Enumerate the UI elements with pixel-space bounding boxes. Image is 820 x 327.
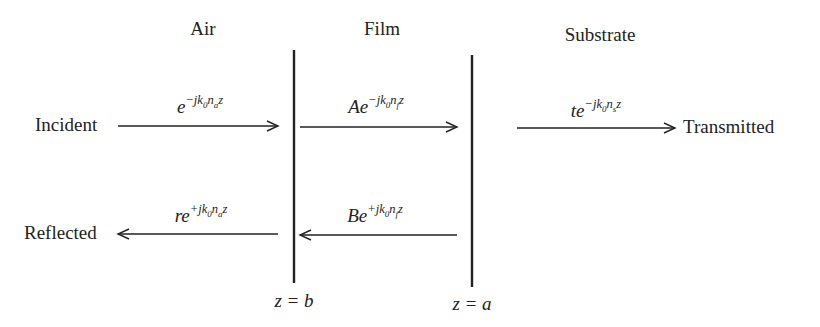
incident-equation: e−jk0naz [177,96,223,119]
boundary-label-a: z = a [452,293,491,315]
incident-label: Incident [35,114,97,136]
transmitted-label: Transmitted [683,116,774,138]
reflected-label: Reflected [24,222,97,244]
diagram-lines [0,0,820,327]
film-backward-equation: Be+jk0nfz [347,205,403,228]
boundary-label-b: z = b [274,290,313,312]
transmitted-equation: te−jk0nsz [571,100,621,123]
film-forward-equation: Ae−jk0nfz [348,96,404,119]
reflected-equation: re+jk0naz [175,205,228,228]
